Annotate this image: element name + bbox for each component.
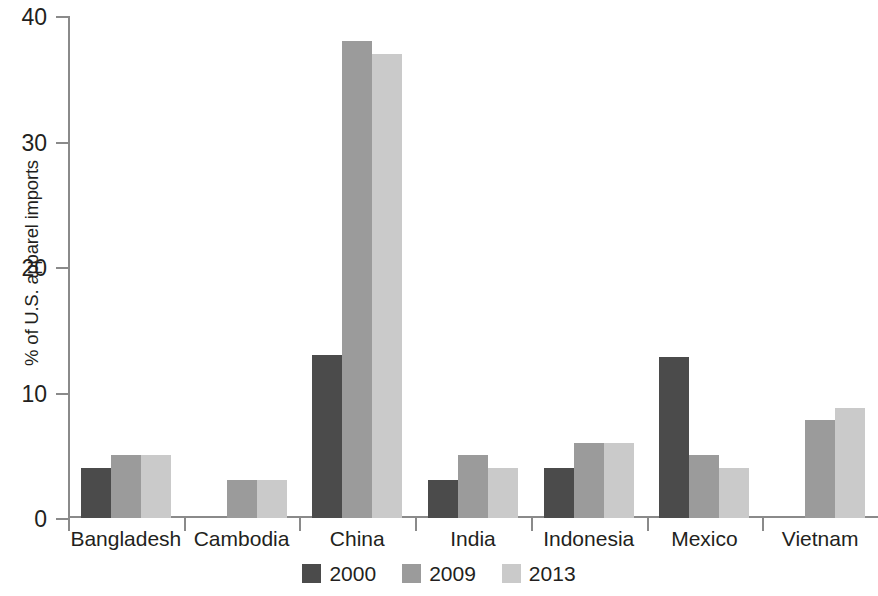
bar-bangladesh-2013 bbox=[141, 455, 171, 518]
y-tick-label: 30 bbox=[21, 129, 47, 156]
bar-group-bars bbox=[762, 16, 878, 518]
legend-label: 2000 bbox=[329, 563, 376, 584]
bar-group-bars bbox=[415, 16, 531, 518]
y-tick-label: 0 bbox=[34, 506, 47, 533]
bar-chart: % of U.S. apparel imports 010203040 Bang… bbox=[0, 0, 878, 596]
x-label-china: China bbox=[330, 527, 385, 551]
bar-bangladesh-2009 bbox=[111, 455, 141, 518]
x-label-indonesia: Indonesia bbox=[543, 527, 634, 551]
bar-china-2013 bbox=[372, 54, 402, 518]
legend-label: 2009 bbox=[429, 563, 476, 584]
bar-group bbox=[415, 16, 531, 518]
x-label-mexico: Mexico bbox=[671, 527, 738, 551]
bar-group-bars bbox=[68, 16, 184, 518]
legend-swatch-icon bbox=[302, 564, 321, 583]
y-tick-mark: 0 bbox=[56, 518, 68, 520]
y-tick-mark: 10 bbox=[56, 393, 68, 395]
bar-group bbox=[762, 16, 878, 518]
bar-group-bars bbox=[299, 16, 415, 518]
bar-cambodia-2009 bbox=[227, 480, 257, 518]
legend-item-2013: 2013 bbox=[502, 563, 576, 584]
x-axis-labels: BangladeshCambodiaChinaIndiaIndonesiaMex… bbox=[68, 527, 878, 557]
y-tick-mark: 20 bbox=[56, 267, 68, 269]
legend-item-2000: 2000 bbox=[302, 563, 376, 584]
x-label-vietnam: Vietnam bbox=[782, 527, 859, 551]
bar-indonesia-2013 bbox=[604, 443, 634, 518]
bar-bangladesh-2000 bbox=[81, 468, 111, 518]
x-label-bangladesh: Bangladesh bbox=[70, 527, 181, 551]
bar-indonesia-2009 bbox=[574, 443, 604, 518]
bar-cambodia-2013 bbox=[257, 480, 287, 518]
bar-group-bars bbox=[184, 16, 300, 518]
bar-group bbox=[68, 16, 184, 518]
bar-mexico-2009 bbox=[689, 455, 719, 518]
x-label-cambodia: Cambodia bbox=[194, 527, 290, 551]
bar-group-bars bbox=[531, 16, 647, 518]
legend-swatch-icon bbox=[402, 564, 421, 583]
y-tick-label: 10 bbox=[21, 380, 47, 407]
bar-mexico-2013 bbox=[719, 468, 749, 518]
bar-vietnam-2013 bbox=[835, 408, 865, 518]
legend-item-2009: 2009 bbox=[402, 563, 476, 584]
y-tick-mark: 40 bbox=[56, 16, 68, 18]
bar-china-2000 bbox=[312, 355, 342, 518]
bar-group bbox=[531, 16, 647, 518]
bar-group bbox=[299, 16, 415, 518]
legend-label: 2013 bbox=[529, 563, 576, 584]
bar-groups bbox=[68, 16, 878, 518]
bar-group bbox=[647, 16, 763, 518]
chart-legend: 200020092013 bbox=[0, 563, 878, 584]
y-tick-label: 40 bbox=[21, 4, 47, 31]
legend-swatch-icon bbox=[502, 564, 521, 583]
bar-india-2000 bbox=[428, 480, 458, 518]
plot-area: 010203040 bbox=[68, 16, 878, 518]
y-tick-mark: 30 bbox=[56, 142, 68, 144]
bar-india-2013 bbox=[488, 468, 518, 518]
bar-vietnam-2009 bbox=[805, 420, 835, 518]
bar-indonesia-2000 bbox=[544, 468, 574, 518]
y-tick-label: 20 bbox=[21, 255, 47, 282]
x-label-india: India bbox=[450, 527, 496, 551]
bar-group bbox=[184, 16, 300, 518]
bar-mexico-2000 bbox=[659, 357, 689, 518]
bar-india-2009 bbox=[458, 455, 488, 518]
bar-group-bars bbox=[647, 16, 763, 518]
bar-china-2009 bbox=[342, 41, 372, 518]
